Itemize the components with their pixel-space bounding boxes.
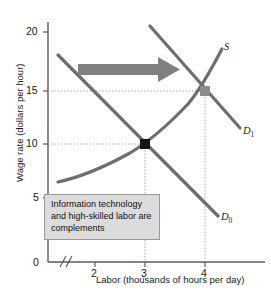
demand-curve-initial bbox=[58, 55, 218, 216]
y-axis-ticks bbox=[43, 32, 48, 198]
y-axis-title: Wage rate (dollars per hour) bbox=[15, 58, 25, 188]
y-tick-label-20: 20 bbox=[26, 26, 38, 37]
annotation-box: Information technology and high-skilled … bbox=[44, 194, 160, 240]
demand-initial-label-subscript: 0 bbox=[229, 216, 233, 225]
demand-new-label-text: D bbox=[243, 125, 251, 136]
demand-new-label-subscript: 1 bbox=[251, 130, 255, 139]
annotation-text: Information technology and high-skilled … bbox=[51, 199, 154, 235]
y-tick-label-0: 0 bbox=[33, 257, 39, 268]
y-tick-label-5: 5 bbox=[33, 192, 39, 203]
chart-plot-area bbox=[0, 0, 271, 290]
demand-new-curve-label: D1 bbox=[243, 126, 254, 139]
supply-curve-label: S bbox=[224, 42, 229, 53]
demand-initial-curve-label: D0 bbox=[221, 212, 232, 225]
y-tick-label-10: 10 bbox=[26, 138, 38, 149]
x-axis-ticks bbox=[95, 262, 205, 267]
demand-initial-label-text: D bbox=[221, 211, 229, 222]
supply-curve-label-text: S bbox=[224, 41, 229, 52]
y-tick-label-15: 15 bbox=[26, 85, 38, 96]
x-axis-title: Labor (thousands of hours per day) bbox=[96, 275, 244, 285]
new-equilibrium-marker bbox=[200, 86, 210, 96]
demand-shift-arrow-icon bbox=[78, 57, 180, 82]
initial-equilibrium-marker bbox=[140, 139, 150, 149]
chart-figure: 20 15 10 5 0 2 3 4 Wage rate (dollars pe… bbox=[0, 0, 271, 290]
